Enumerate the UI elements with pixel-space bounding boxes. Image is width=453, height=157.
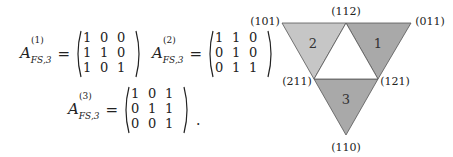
vertex-label-101: (101): [250, 15, 280, 28]
triangle-3: [314, 79, 378, 135]
vertex-label-211: (211): [282, 75, 312, 88]
triangle-1-label: 1: [374, 36, 382, 51]
triangle-2-label: 2: [309, 36, 317, 51]
vertex-label-112: (112): [331, 5, 361, 18]
vertex-label-110: (110): [331, 141, 361, 154]
vertex-label-011: (011): [415, 15, 445, 28]
vertex-label-121: (121): [380, 75, 410, 88]
triangle-diagram: 2 1 3 (101) (112) (011) (211) (121) (110…: [0, 0, 453, 157]
triangle-3-label: 3: [342, 92, 350, 107]
